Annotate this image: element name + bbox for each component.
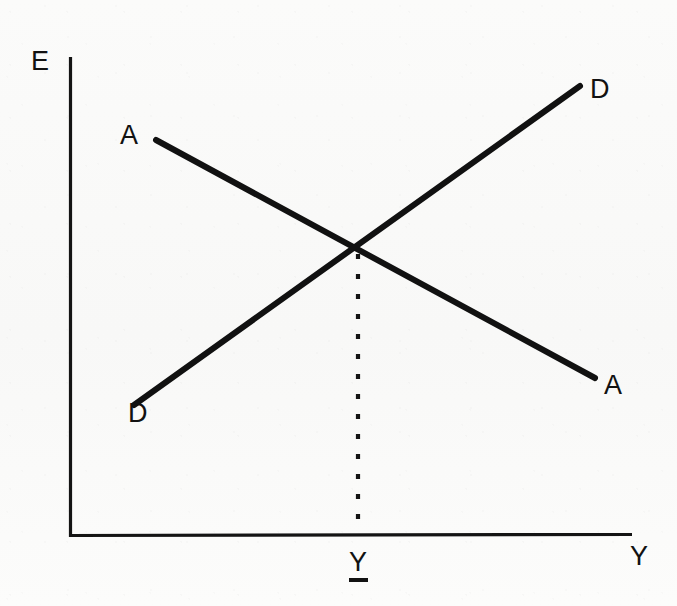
figure-canvas: E A D D A Y Y [0, 0, 677, 606]
keynesian-cross-drawing [0, 0, 677, 606]
x-axis-line [69, 535, 632, 536]
equilibrium-income-label: Y [349, 549, 368, 582]
x-axis-label: Y [630, 543, 649, 570]
y-axis-label: E [31, 48, 50, 75]
dd-curve-label-right: D [590, 76, 610, 103]
dd-curve-label-left: D [128, 400, 148, 427]
aa-curve-label-right: A [604, 372, 623, 399]
aa-curve-label-left: A [120, 122, 139, 149]
